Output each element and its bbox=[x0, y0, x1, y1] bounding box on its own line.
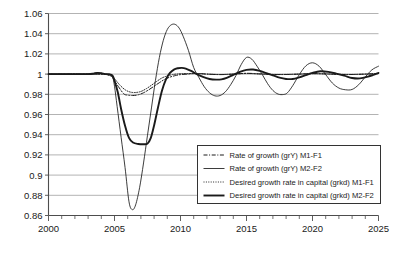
x-tick-label: 2010 bbox=[170, 223, 191, 234]
x-tick-label: 2000 bbox=[38, 223, 59, 234]
y-tick-label: 0.9 bbox=[29, 170, 42, 181]
y-tick-label: 0.96 bbox=[24, 109, 43, 120]
x-tick-label: 2020 bbox=[302, 223, 323, 234]
legend-label-2: Rate of growth (grY) M2-F2 bbox=[230, 164, 322, 173]
y-tick-label: 1 bbox=[37, 69, 42, 80]
y-tick-label: 0.88 bbox=[24, 190, 43, 201]
chart-background bbox=[0, 0, 404, 255]
legend-label-1: Rate of growth (grY) M1-F1 bbox=[230, 151, 322, 160]
y-tick-label: 0.86 bbox=[24, 210, 43, 221]
y-tick-label: 0.94 bbox=[24, 129, 43, 140]
chart-container: 1.061.041.0210.980.960.940.920.90.880.86… bbox=[0, 0, 404, 255]
legend-label-4: Desired growth rate in capital (grkd) M2… bbox=[230, 191, 374, 200]
y-tick-label: 1.02 bbox=[24, 48, 43, 59]
x-tick-label: 2025 bbox=[368, 223, 389, 234]
y-tick-label: 1.04 bbox=[24, 28, 43, 39]
line-chart: 1.061.041.0210.980.960.940.920.90.880.86… bbox=[0, 0, 404, 255]
y-tick-label: 1.06 bbox=[24, 8, 43, 19]
chart-legend: Rate of growth (grY) M1-F1Rate of growth… bbox=[198, 146, 381, 204]
x-tick-label: 2015 bbox=[236, 223, 257, 234]
legend-label-3: Desired growth rate in capital (grkd) M1… bbox=[230, 178, 374, 187]
y-tick-label: 0.92 bbox=[24, 149, 43, 160]
y-tick-label: 0.98 bbox=[24, 89, 43, 100]
x-tick-label: 2005 bbox=[104, 223, 125, 234]
